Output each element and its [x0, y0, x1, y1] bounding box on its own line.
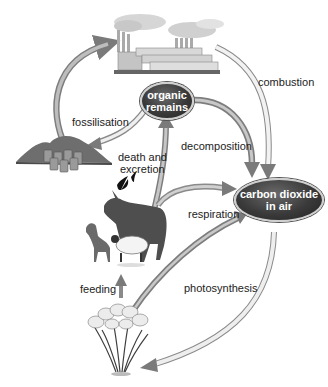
label-feeding: feeding — [80, 283, 116, 296]
arrow-combustion — [216, 47, 276, 180]
label-fossilisation: fossilisation — [72, 116, 129, 129]
factory-illustration — [114, 14, 224, 74]
label-combustion: combustion — [258, 76, 314, 89]
node-co2-line1: carbon dioxide — [240, 188, 318, 200]
node-carbon-dioxide-in-air: carbon dioxide in air — [234, 178, 324, 222]
dog-illustration — [86, 223, 110, 262]
arrow-fossil-to-factory — [56, 44, 108, 148]
label-decomposition: decomposition — [181, 140, 252, 153]
label-respiration: respiration — [188, 208, 239, 221]
arrow-respiration — [158, 181, 237, 205]
sheep-illustration — [111, 235, 148, 267]
plants-illustration — [88, 304, 148, 376]
node-organic-remains-line1: organic — [146, 89, 188, 101]
label-excretion: excretion — [120, 163, 165, 176]
label-photosynthesis: photosynthesis — [184, 282, 257, 295]
node-organic-remains-line2: remains — [146, 101, 188, 113]
node-co2-line2: in air — [240, 200, 318, 212]
arrow-feeding — [115, 274, 127, 298]
arrow-decomposition — [194, 100, 260, 178]
node-organic-remains: organic remains — [140, 82, 194, 120]
